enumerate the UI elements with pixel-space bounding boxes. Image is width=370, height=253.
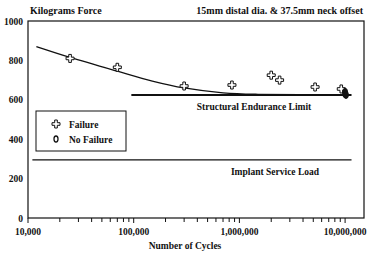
y-tick-label: 0 [18,214,23,224]
legend-no-failure-label: No Failure [69,135,112,145]
y-tick-label: 600 [9,95,24,105]
x-tick-label: 1,000,000 [220,227,258,237]
legend-box [36,111,126,151]
failure-marker [267,71,275,79]
endurance-limit-label: Structural Endurance Limit [197,102,312,112]
failure-marker [276,76,284,84]
y-axis: 02004006008001000 [4,17,23,224]
no-failure-marker [344,91,349,98]
y-tick-label: 200 [9,174,24,184]
y-tick-label: 1000 [4,17,23,27]
fatigue-chart: Kilograms Force 15mm distal dia. & 37.5m… [0,0,370,253]
failure-marker [66,54,74,62]
x-tick-label: 10,000 [15,227,41,237]
failure-marker [228,81,236,89]
x-tick-label: 100,000 [118,227,149,237]
x-axis-title: Number of Cycles [149,241,222,251]
x-tick-label: 10,000,000 [324,227,367,237]
x-axis: 10,000100,0001,000,00010,000,000 [15,218,367,237]
y-axis-title: Kilograms Force [30,5,102,16]
fatigue-curve [36,47,345,95]
y-tick-label: 800 [9,56,24,66]
legend: FailureNo Failure [36,111,126,151]
y-tick-label: 400 [9,135,24,145]
chart-title: 15mm distal dia. & 37.5mm neck offset [196,5,363,16]
legend-failure-label: Failure [69,120,98,130]
failure-marker [311,83,319,91]
legend-no-failure-icon [54,136,58,142]
service-load-label: Implant Service Load [231,167,320,177]
